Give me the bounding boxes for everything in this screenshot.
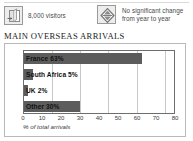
bar-label: UK 2% [26,85,47,96]
bar-row: UK 2% [24,83,174,99]
legend: 8,000 visitors No significant change fro… [0,5,193,30]
x-axis-caption: % of total arrivals [23,123,70,130]
x-tick-label: 30 [77,115,84,121]
top-divider [4,2,189,3]
bar-row: South Africa 5% [24,67,174,83]
x-tick-label: 80 [172,115,179,121]
chart-frame: France 63%South Africa 5%UK 2%Other 30% … [4,43,186,137]
legend-item-visitors: 8,000 visitors [4,6,66,25]
legend-item-change: No significant change from year to year [97,5,183,24]
bar-label: Other 30% [26,101,60,112]
bar-row: Other 30% [24,99,174,115]
x-tick-label: 40 [96,115,103,121]
bar-label: South Africa 5% [26,69,78,80]
legend-label-visitors: 8,000 visitors [28,12,66,20]
bar-label: France 63% [26,53,64,64]
x-tick-label: 10 [39,115,46,121]
visitor-box-icon [4,6,23,25]
chart-card: 8,000 visitors No significant change fro… [0,0,193,141]
bar-series: France 63%South Africa 5%UK 2%Other 30% [24,51,174,113]
x-tick-label: 20 [58,115,65,121]
plot-area: France 63%South Africa 5%UK 2%Other 30% [23,50,175,114]
no-change-diamond-icon [97,5,116,24]
x-tick-label: 50 [115,115,122,121]
bar-row: France 63% [24,51,174,67]
chart-title: MAIN OVERSEAS ARRIVALS [4,31,125,41]
x-tick-label: 70 [153,115,160,121]
legend-label-change: No significant change from year to year [122,7,183,22]
x-tick-label: 0 [21,115,24,121]
x-tick-label: 60 [134,115,141,121]
